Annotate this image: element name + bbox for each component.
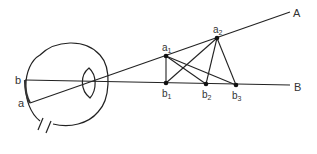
label-line-B: B xyxy=(294,81,301,93)
diagram-canvas: b a A B a1 a2 b1 b2 b3 xyxy=(0,0,317,154)
sight-line-B xyxy=(25,80,290,85)
label-retina-b: b xyxy=(15,74,21,86)
label-b2: b2 xyxy=(202,89,212,101)
eye-perspective-diagram: b a A B a1 a2 b1 b2 b3 xyxy=(0,0,317,154)
label-a1: a1 xyxy=(162,42,172,54)
label-retina-a: a xyxy=(18,97,25,109)
sight-line-A xyxy=(30,12,290,103)
label-line-A: A xyxy=(293,7,301,19)
retina-image xyxy=(25,80,30,103)
connecting-lines xyxy=(166,38,236,85)
optic-nerve-right xyxy=(46,121,51,133)
label-b1: b1 xyxy=(162,88,172,100)
label-b3: b3 xyxy=(232,90,242,102)
label-a2: a2 xyxy=(213,24,223,36)
